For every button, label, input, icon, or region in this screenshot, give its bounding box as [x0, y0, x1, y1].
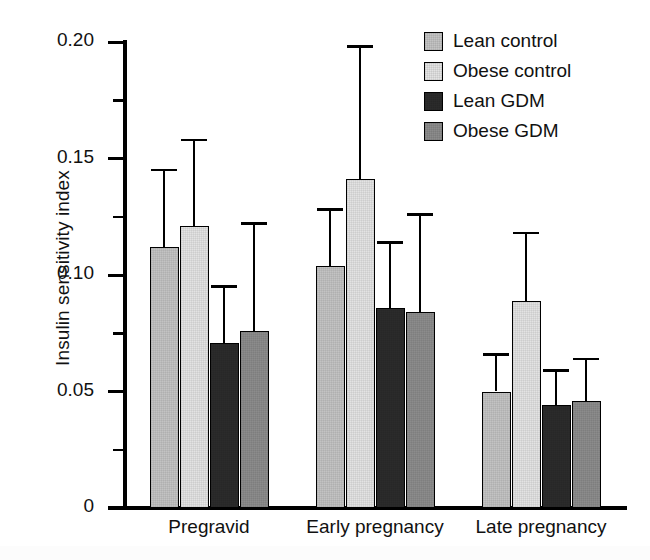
legend-label: Obese control [453, 60, 571, 82]
error-bar-cap [573, 358, 599, 361]
error-bar-stem [253, 224, 255, 331]
x-axis-category-label: Late pregnancy [476, 516, 607, 538]
y-tick-minor [113, 332, 124, 335]
bar [240, 331, 269, 508]
bar [572, 401, 601, 508]
y-tick-minor [113, 99, 124, 102]
legend-label: Lean GDM [453, 90, 545, 112]
error-bar-stem [223, 287, 225, 343]
bar [210, 343, 239, 508]
y-tick-minor [113, 449, 124, 452]
legend-label: Lean control [453, 30, 558, 52]
error-bar-cap [407, 213, 433, 216]
bar [406, 312, 435, 508]
legend-swatch-icon [424, 32, 443, 51]
error-bar-cap [543, 369, 569, 372]
error-bar-cap [317, 208, 343, 211]
error-bar-cap [181, 139, 207, 142]
error-bar-stem [163, 170, 165, 247]
page-edge [0, 546, 650, 560]
error-bar-cap [347, 45, 373, 48]
error-bar-stem [555, 371, 557, 406]
y-tick-major [108, 274, 124, 277]
bar [376, 308, 405, 508]
error-bar-cap [151, 169, 177, 172]
error-bar-stem [329, 210, 331, 266]
y-tick-minor [113, 216, 124, 219]
bar [316, 266, 345, 508]
legend-label: Obese GDM [453, 120, 559, 142]
legend: Lean controlObese controlLean GDMObese G… [424, 26, 571, 146]
y-tick-label: 0.05 [36, 379, 94, 401]
legend-swatch-icon [424, 62, 443, 81]
error-bar-stem [585, 359, 587, 401]
x-axis-category-label: Early pregnancy [306, 516, 443, 538]
y-tick-major [108, 157, 124, 160]
bar [512, 301, 541, 508]
y-tick-major [108, 41, 124, 44]
error-bar-stem [389, 242, 391, 307]
error-bar-stem [525, 233, 527, 301]
error-bar-stem [419, 214, 421, 312]
x-axis-category-label: Pregravid [168, 516, 249, 538]
error-bar-cap [211, 285, 237, 288]
bar [346, 179, 375, 508]
legend-item: Obese control [424, 56, 571, 86]
error-bar-stem [193, 140, 195, 226]
error-bar-stem [359, 47, 361, 180]
legend-item: Lean control [424, 26, 571, 56]
y-tick-label: 0.20 [36, 29, 94, 51]
legend-swatch-icon [424, 92, 443, 111]
bar [180, 226, 209, 508]
y-tick-label: 0.10 [36, 262, 94, 284]
y-tick-major [108, 390, 124, 393]
bar-chart-figure: Insulin sensitivity index 00.050.100.150… [0, 0, 650, 560]
error-bar-cap [241, 222, 267, 225]
error-bar-stem [495, 354, 497, 391]
bar [542, 405, 571, 508]
error-bar-cap [513, 232, 539, 235]
y-tick-label: 0 [36, 495, 94, 517]
bar [150, 247, 179, 508]
legend-swatch-icon [424, 122, 443, 141]
bar [482, 392, 511, 509]
error-bar-cap [377, 241, 403, 244]
y-tick-major [108, 507, 124, 510]
error-bar-cap [483, 353, 509, 356]
y-tick-label: 0.15 [36, 146, 94, 168]
legend-item: Obese GDM [424, 116, 571, 146]
legend-item: Lean GDM [424, 86, 571, 116]
